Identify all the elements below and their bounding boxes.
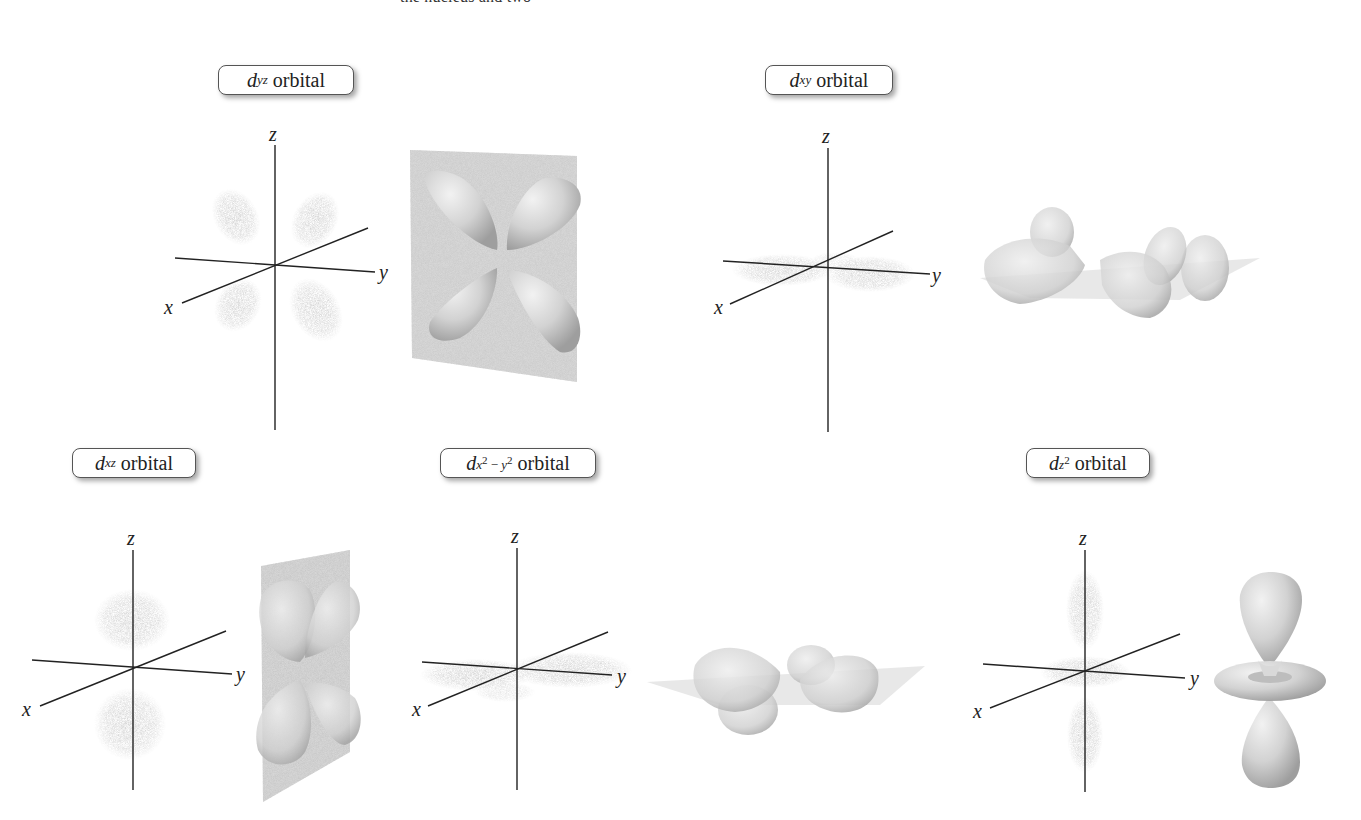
dz2-electron-cloud: z y x bbox=[972, 527, 1199, 792]
x-axis-label: x bbox=[713, 296, 723, 318]
dz2-orbital-surface bbox=[1214, 572, 1326, 788]
dx2-y2-electron-cloud: z y x bbox=[411, 525, 632, 790]
dxz-electron-cloud: z y x bbox=[21, 527, 245, 790]
dxy-orbital-surface bbox=[980, 207, 1260, 318]
dyz-electron-cloud: z y x bbox=[163, 123, 388, 430]
z-axis-label: z bbox=[126, 527, 135, 549]
dx2-y2-orbital-surface bbox=[647, 645, 925, 735]
axes bbox=[175, 145, 375, 430]
orbital-diagrams: z y x z y x bbox=[0, 0, 1361, 820]
x-axis-label: x bbox=[972, 700, 982, 722]
y-axis-label: y bbox=[377, 261, 388, 284]
axes bbox=[723, 148, 930, 432]
y-axis-label: y bbox=[930, 264, 941, 287]
x-axis-label: x bbox=[163, 296, 173, 318]
z-axis-label: z bbox=[268, 123, 277, 145]
y-axis-label: y bbox=[615, 665, 626, 688]
z-axis-label: z bbox=[821, 125, 830, 147]
x-axis-label: x bbox=[411, 698, 421, 720]
x-axis-label: x bbox=[21, 698, 31, 720]
z-axis-label: z bbox=[1078, 527, 1087, 549]
z-axis-label: z bbox=[510, 525, 519, 547]
y-axis-label: y bbox=[1188, 667, 1199, 690]
dyz-orbital-surface bbox=[410, 150, 581, 382]
dxz-orbital-surface bbox=[256, 550, 360, 802]
dxy-electron-cloud: z y x bbox=[713, 125, 941, 432]
y-axis-label: y bbox=[234, 663, 245, 686]
